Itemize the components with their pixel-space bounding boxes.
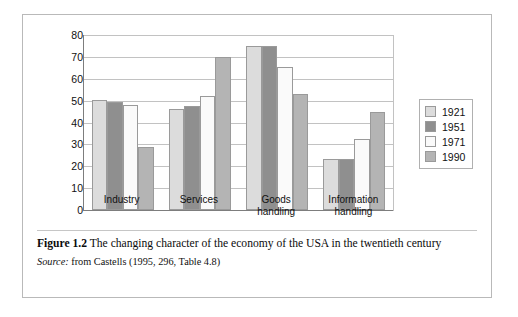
legend-item-1921: 1921	[425, 104, 465, 119]
bars-layer	[84, 35, 393, 210]
x-category-label: Goods handling	[238, 194, 315, 218]
legend-label: 1971	[442, 136, 465, 148]
legend-item-1990: 1990	[425, 149, 465, 164]
bar-group	[246, 35, 308, 210]
caption-source-line: Source: from Castells (1995, 296, Table …	[37, 255, 467, 268]
x-category-label: Information handling	[315, 194, 392, 218]
bar-1921-goods-handling	[246, 46, 262, 210]
x-category-label: Services	[160, 194, 237, 206]
y-tick-label: 40	[49, 118, 83, 128]
y-tick-label: 20	[49, 161, 83, 171]
bar-1990-services	[215, 57, 231, 210]
bar-chart: 01020304050607080 IndustryServicesGoods …	[23, 15, 491, 227]
source-label: Source:	[37, 256, 69, 267]
bar-group	[92, 35, 154, 210]
y-tick-label: 30	[49, 139, 83, 149]
legend-swatch-icon	[425, 121, 436, 132]
caption-divider	[37, 230, 477, 231]
source-body: from Castells (1995, 296, Table 4.8)	[71, 256, 220, 267]
legend-swatch-icon	[425, 136, 436, 147]
caption-main-text: Figure 1.2 The changing character of the…	[37, 236, 467, 252]
bar-group	[169, 35, 231, 210]
caption-figure-number: Figure 1.2	[37, 237, 87, 250]
legend-label: 1921	[442, 106, 465, 118]
y-tick-label: 70	[49, 52, 83, 62]
legend-item-1971: 1971	[425, 134, 465, 149]
caption-body: The changing character of the economy of…	[90, 237, 442, 250]
y-tick-label: 50	[49, 96, 83, 106]
y-tick-label: 60	[49, 74, 83, 84]
legend-item-1951: 1951	[425, 119, 465, 134]
chart-legend: 1921195119711990	[419, 99, 473, 169]
y-axis-tick-labels: 01020304050607080	[45, 35, 83, 210]
bar-1990-goods-handling	[293, 94, 309, 210]
x-category-label: Industry	[83, 194, 160, 206]
legend-swatch-icon	[425, 106, 436, 117]
bar-1971-services	[200, 96, 216, 210]
figure-caption: Figure 1.2 The changing character of the…	[37, 236, 467, 268]
y-tick-label: 0	[49, 205, 83, 215]
bar-1951-goods-handling	[262, 46, 278, 210]
bar-group	[323, 35, 385, 210]
legend-swatch-icon	[425, 151, 436, 162]
y-tick-label: 10	[49, 183, 83, 193]
y-tick-label: 80	[49, 30, 83, 40]
bar-1971-goods-handling	[277, 67, 293, 210]
figure-frame: 01020304050607080 IndustryServicesGoods …	[22, 14, 492, 298]
legend-label: 1951	[442, 121, 465, 133]
plot-right-edge	[393, 35, 394, 211]
plot-area	[83, 35, 393, 211]
legend-label: 1990	[442, 151, 465, 163]
